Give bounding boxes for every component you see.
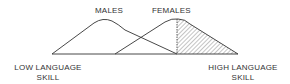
low-language-skill-label: LOW LANGUAGE SKILL bbox=[8, 63, 88, 83]
language-skill-distribution-diagram: MALES FEMALES LOW LANGUAGE SKILL HIGH LA… bbox=[0, 0, 290, 84]
high-skill-line2: SKILL bbox=[200, 73, 286, 83]
low-skill-line2: SKILL bbox=[8, 73, 88, 83]
males-label: MALES bbox=[95, 6, 123, 16]
high-skill-line1: HIGH LANGUAGE bbox=[200, 63, 286, 73]
low-skill-line1: LOW LANGUAGE bbox=[8, 63, 88, 73]
males-curve bbox=[52, 19, 177, 54]
females-label: FEMALES bbox=[152, 6, 191, 16]
high-language-skill-label: HIGH LANGUAGE SKILL bbox=[200, 63, 286, 83]
